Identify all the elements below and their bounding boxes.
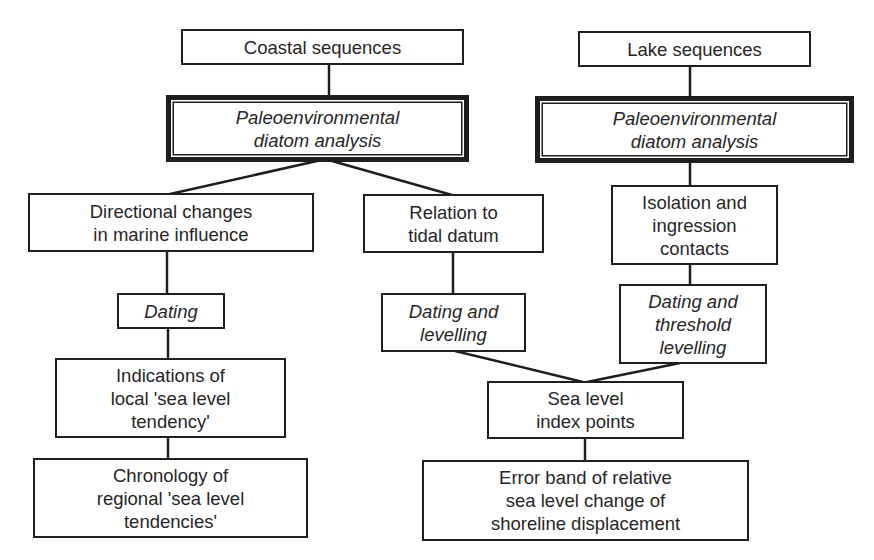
edge-dating-levelling-to-index-points xyxy=(455,351,583,382)
node-coastal-sequences: Coastal sequences xyxy=(181,29,464,65)
node-sea-level-index-points: Sea level index points xyxy=(487,381,684,439)
edge-paleo-left-to-tidal xyxy=(332,161,452,195)
node-error-band-relative-sea-level: Error band of relative sea level change … xyxy=(422,460,749,541)
node-dating: Dating xyxy=(117,293,225,329)
node-indications-local-sea-level-tendency: Indications of local 'sea level tendency… xyxy=(55,358,286,438)
edge-paleo-left-to-directional xyxy=(170,161,317,194)
node-directional-changes: Directional changes in marine influence xyxy=(28,193,314,252)
node-dating-threshold-levelling: Dating and threshold levelling xyxy=(619,284,767,364)
edge-dating-threshold-to-index-points xyxy=(587,363,680,382)
node-isolation-ingression-contacts: Isolation and ingression contacts xyxy=(611,185,778,265)
flowchart-diagram: Coastal sequences Lake sequences Paleoen… xyxy=(0,0,874,560)
node-lake-sequences: Lake sequences xyxy=(578,31,811,67)
node-paleo-diatom-analysis-coastal: Paleoenvironmental diatom analysis xyxy=(166,95,469,162)
node-dating-and-levelling: Dating and levelling xyxy=(381,293,526,352)
node-chronology-regional-tendencies: Chronology of regional 'sea level tenden… xyxy=(33,458,308,538)
node-paleo-diatom-analysis-lake: Paleoenvironmental diatom analysis xyxy=(535,96,854,163)
node-relation-to-tidal-datum: Relation to tidal datum xyxy=(363,194,544,253)
